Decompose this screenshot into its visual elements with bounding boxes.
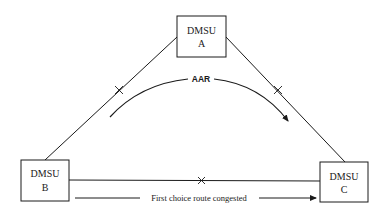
svg-text:DMSU: DMSU (187, 25, 217, 36)
svg-text:B: B (42, 182, 49, 193)
route-label: First choice route congested (151, 193, 247, 203)
congestion-cross-icon-a-c (274, 86, 282, 94)
link-b-c (69, 180, 320, 181)
aar-arc-left (110, 79, 188, 117)
svg-text:C: C (341, 184, 348, 195)
dmsu-routing-diagram: AAR First choice route congested DMSU A … (0, 0, 390, 213)
aar-arc-right (214, 79, 288, 121)
svg-text:DMSU: DMSU (330, 171, 360, 182)
node-dmsu-a: DMSU A (177, 16, 226, 57)
link-a-c (226, 37, 345, 162)
svg-text:DMSU: DMSU (31, 168, 61, 179)
congestion-cross-icon-a-b (115, 86, 123, 94)
aar-label: AAR (192, 74, 210, 84)
svg-text:A: A (198, 38, 206, 49)
node-dmsu-c: DMSU C (320, 162, 368, 202)
node-dmsu-b: DMSU B (21, 160, 69, 201)
link-a-b (45, 37, 177, 160)
